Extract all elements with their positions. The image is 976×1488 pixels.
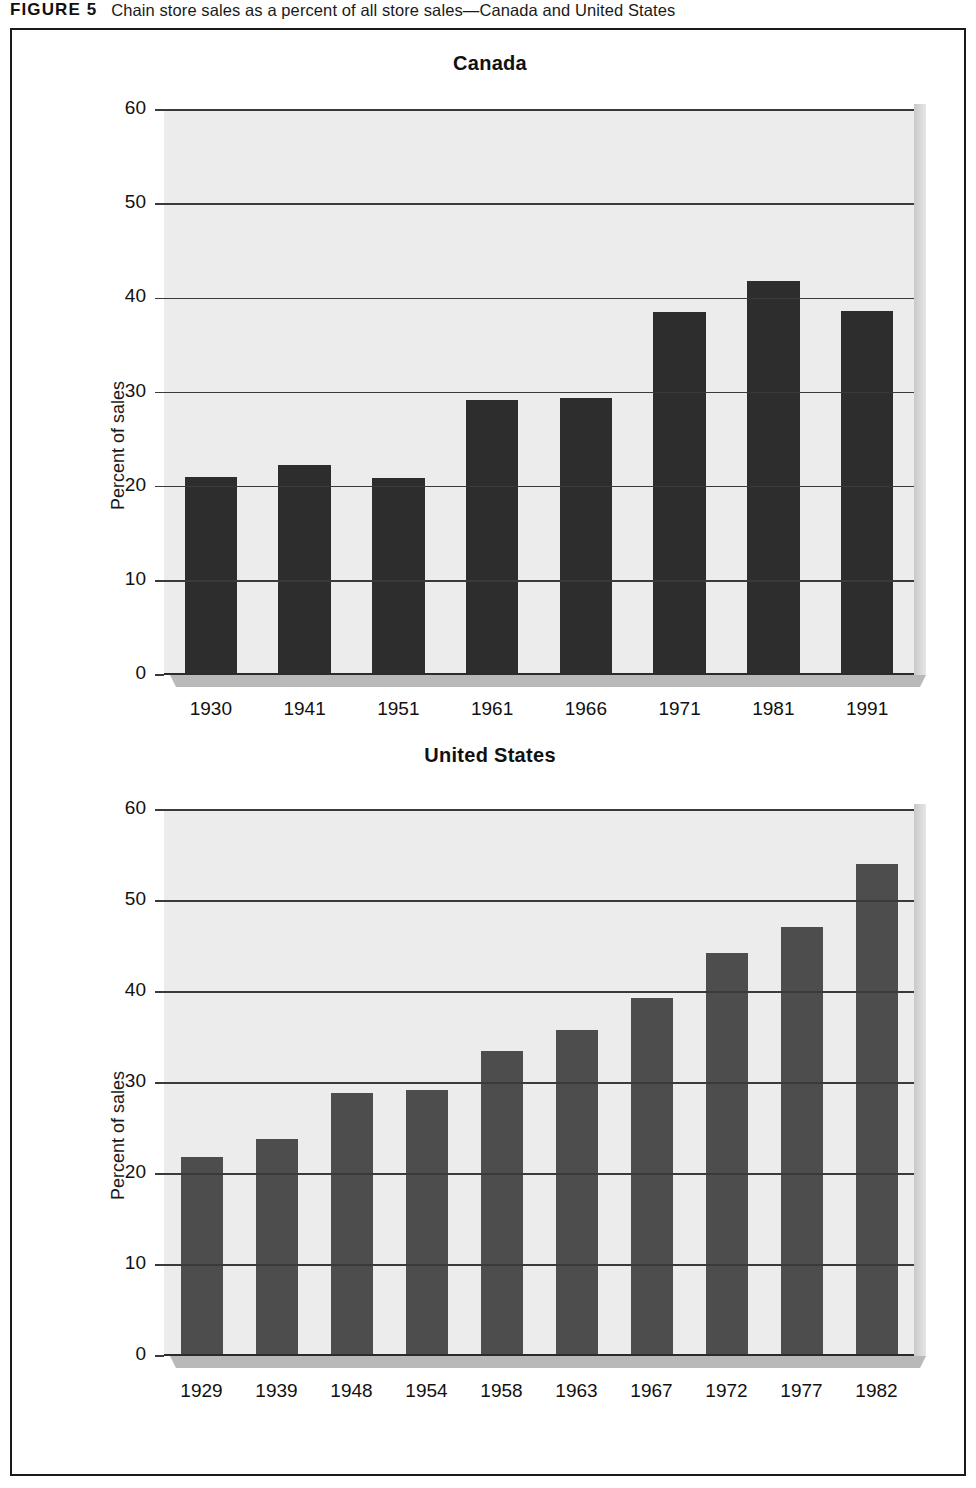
bar bbox=[181, 1157, 223, 1356]
gridline bbox=[164, 991, 914, 993]
y-axis-tick-label: 50 bbox=[96, 888, 146, 910]
bar bbox=[372, 478, 425, 675]
x-axis-tick-label: 1981 bbox=[728, 698, 818, 720]
y-axis-tick-label: 30 bbox=[96, 1070, 146, 1092]
x-axis-tick-label: 1961 bbox=[447, 698, 537, 720]
x-axis-tick-label: 1966 bbox=[541, 698, 631, 720]
y-axis-tick-mark bbox=[155, 580, 164, 582]
x-axis-tick-label: 1941 bbox=[260, 698, 350, 720]
y-axis-tick-label: 0 bbox=[96, 662, 146, 684]
y-axis-tick-label: 40 bbox=[96, 979, 146, 1001]
y-axis-tick-mark bbox=[155, 900, 164, 902]
y-axis-tick-mark bbox=[155, 1355, 164, 1357]
y-axis-tick-mark bbox=[155, 1173, 164, 1175]
y-axis-tick-label: 60 bbox=[96, 97, 146, 119]
chart-title-canada: Canada bbox=[12, 52, 968, 75]
plot-right-shadow bbox=[914, 104, 926, 675]
plot-background: 0102030405060 bbox=[164, 810, 914, 1356]
y-axis-tick-mark bbox=[155, 991, 164, 993]
bar bbox=[706, 953, 748, 1356]
y-axis-tick-label: 50 bbox=[96, 191, 146, 213]
bar bbox=[185, 477, 238, 675]
y-axis-tick-label: 20 bbox=[96, 1161, 146, 1183]
y-axis-tick-mark bbox=[155, 1264, 164, 1266]
bar bbox=[631, 998, 673, 1356]
plot-bottom-shadow bbox=[170, 1356, 926, 1368]
axis-baseline bbox=[164, 1354, 914, 1356]
bar bbox=[560, 398, 613, 675]
bar bbox=[331, 1093, 373, 1356]
x-axis-tick-label: 1951 bbox=[353, 698, 443, 720]
gridline bbox=[164, 1173, 914, 1175]
y-axis-tick-mark bbox=[155, 203, 164, 205]
y-axis-tick-label: 10 bbox=[96, 568, 146, 590]
gridline bbox=[164, 392, 914, 394]
bar bbox=[278, 465, 331, 675]
gridline bbox=[164, 203, 914, 205]
bar bbox=[481, 1051, 523, 1356]
figure-page: FIGURE 5 Chain store sales as a percent … bbox=[0, 0, 976, 1488]
figure-number: FIGURE 5 bbox=[10, 0, 97, 20]
bar bbox=[856, 864, 898, 1356]
plot-right-shadow bbox=[914, 804, 926, 1356]
bar bbox=[653, 312, 706, 675]
bar bbox=[406, 1090, 448, 1356]
x-axis-tick-label: 1991 bbox=[822, 698, 912, 720]
plot-area-canada: 0102030405060 bbox=[164, 110, 914, 675]
y-axis-tick-mark bbox=[155, 109, 164, 111]
gridline bbox=[164, 809, 914, 811]
chart-title-united-states: United States bbox=[12, 744, 968, 767]
gridline bbox=[164, 1264, 914, 1266]
chart-united-states: United States Percent of sales 010203040… bbox=[12, 730, 968, 1430]
gridline bbox=[164, 900, 914, 902]
y-axis-tick-mark bbox=[155, 486, 164, 488]
y-axis-tick-mark bbox=[155, 1082, 164, 1084]
figure-frame: Canada Percent of sales 0102030405060 19… bbox=[10, 28, 966, 1476]
y-axis-tick-mark bbox=[155, 674, 164, 676]
y-axis-tick-label: 0 bbox=[96, 1343, 146, 1365]
y-axis-tick-label: 10 bbox=[96, 1252, 146, 1274]
bar bbox=[466, 400, 519, 675]
gridline bbox=[164, 298, 914, 300]
y-axis-tick-label: 30 bbox=[96, 380, 146, 402]
chart-canada: Canada Percent of sales 0102030405060 19… bbox=[12, 30, 968, 730]
y-axis-tick-label: 60 bbox=[96, 797, 146, 819]
figure-caption: FIGURE 5 Chain store sales as a percent … bbox=[10, 0, 966, 24]
axis-baseline bbox=[164, 673, 914, 675]
bar bbox=[556, 1030, 598, 1356]
plot-area-united-states: 0102030405060 bbox=[164, 810, 914, 1356]
x-axis-tick-label: 1971 bbox=[635, 698, 725, 720]
gridline bbox=[164, 109, 914, 111]
y-axis-tick-mark bbox=[155, 809, 164, 811]
bar bbox=[841, 311, 894, 675]
bar bbox=[256, 1139, 298, 1356]
gridline bbox=[164, 1082, 914, 1084]
y-axis-tick-label: 20 bbox=[96, 474, 146, 496]
figure-title: Chain store sales as a percent of all st… bbox=[111, 1, 675, 20]
plot-bottom-shadow bbox=[170, 675, 926, 687]
x-axis-tick-label: 1930 bbox=[166, 698, 256, 720]
y-axis-tick-label: 40 bbox=[96, 285, 146, 307]
y-axis-tick-mark bbox=[155, 392, 164, 394]
y-axis-tick-mark bbox=[155, 298, 164, 300]
gridline bbox=[164, 580, 914, 582]
bar bbox=[747, 281, 800, 675]
x-axis-tick-label: 1982 bbox=[832, 1380, 922, 1402]
plot-background: 0102030405060 bbox=[164, 110, 914, 675]
gridline bbox=[164, 486, 914, 488]
